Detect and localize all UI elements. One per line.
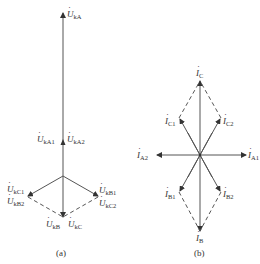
ext-IB2 bbox=[188, 133, 200, 155]
ext-IC1 bbox=[200, 155, 212, 177]
label-IA1: IA1 bbox=[248, 151, 259, 162]
dashed-C-left bbox=[179, 81, 200, 118]
label-UkC2: UkC2 bbox=[99, 199, 116, 210]
label-IA2: IA2 bbox=[137, 151, 148, 162]
arrow-UkA12 bbox=[61, 139, 66, 145]
label-UkA2: UkA2 bbox=[67, 135, 85, 146]
label-IB1: IB1 bbox=[165, 190, 176, 201]
dashed-C-right bbox=[200, 81, 221, 118]
ext-IB1 bbox=[200, 133, 212, 155]
label-IC2: IC2 bbox=[223, 117, 234, 128]
diagram-b bbox=[157, 81, 246, 231]
ext-IC2 bbox=[188, 155, 200, 177]
label-UkC: UkC bbox=[68, 220, 82, 231]
phasor-UkC1 bbox=[28, 176, 63, 196]
dashed-B-right bbox=[200, 192, 221, 231]
label-IB: IB bbox=[196, 234, 203, 245]
caption-b: (b) bbox=[194, 248, 205, 258]
caption-a: (a) bbox=[56, 248, 66, 258]
label-UkA: UkA bbox=[67, 10, 81, 21]
label-IC: IC bbox=[196, 69, 203, 80]
origin-b bbox=[199, 154, 202, 157]
phasor-UkB1 bbox=[63, 176, 98, 196]
dashed-UkB2 bbox=[28, 197, 63, 217]
diagram-a bbox=[28, 13, 98, 217]
label-UkA1: UkA1 bbox=[37, 135, 55, 146]
label-UkB2: UkB2 bbox=[7, 197, 24, 208]
label-IB2: IB2 bbox=[223, 190, 234, 201]
label-UkB: UkB bbox=[46, 220, 60, 231]
label-IC1: IC1 bbox=[165, 117, 176, 128]
